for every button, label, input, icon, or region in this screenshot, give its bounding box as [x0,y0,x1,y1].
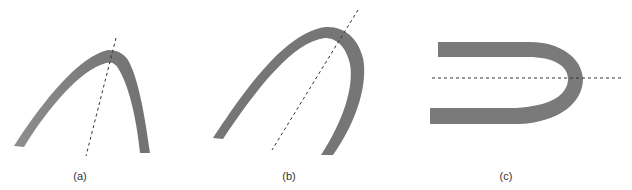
bent-band-figure: (a) (b) (c) [0,0,632,190]
panel-c: (c) [430,42,622,182]
panel-b: (b) [213,10,364,182]
curved-band-b [213,27,364,155]
panel-label-b: (b) [282,170,295,182]
panel-label-a: (a) [73,170,86,182]
panel-label-c: (c) [500,170,513,182]
panel-a: (a) [14,38,150,182]
curved-band-a [14,50,150,153]
curved-band-c [430,42,583,124]
